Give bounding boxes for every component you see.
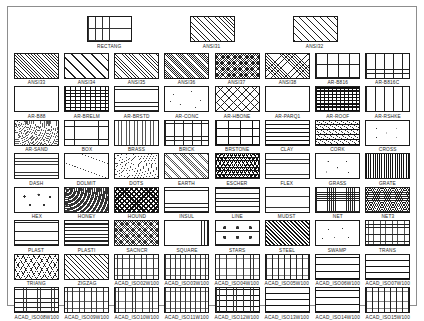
pattern-swatch[interactable] <box>64 187 109 213</box>
pattern-swatch[interactable] <box>315 287 360 313</box>
pattern-swatch[interactable] <box>164 153 209 179</box>
pattern-swatch[interactable] <box>215 287 260 313</box>
pattern-swatch[interactable] <box>64 287 109 313</box>
pattern-cell[interactable]: AR-CONC <box>164 86 209 119</box>
pattern-swatch[interactable] <box>164 220 209 246</box>
pattern-swatch[interactable] <box>365 153 410 179</box>
pattern-cell[interactable]: DASH <box>14 153 59 186</box>
pattern-cell[interactable]: MUDST <box>265 187 310 220</box>
pattern-swatch[interactable] <box>265 254 310 280</box>
pattern-cell[interactable]: ACAD_ISO13W100 <box>265 287 310 320</box>
pattern-cell[interactable]: ACAD_ISO08W100 <box>14 287 59 320</box>
pattern-cell[interactable]: ACAD_ISO15W100 <box>365 287 410 320</box>
pattern-cell[interactable]: BOX <box>64 120 109 153</box>
pattern-cell[interactable]: ESCHER <box>215 153 260 186</box>
pattern-swatch[interactable] <box>114 153 159 179</box>
pattern-swatch[interactable] <box>365 287 410 313</box>
pattern-cell[interactable]: FLEX <box>265 153 310 186</box>
pattern-swatch[interactable] <box>64 86 109 112</box>
pattern-swatch[interactable] <box>164 86 209 112</box>
pattern-cell[interactable]: AR-SAND <box>14 120 59 153</box>
pattern-swatch[interactable] <box>315 53 360 79</box>
pattern-cell[interactable]: BRICK <box>164 120 209 153</box>
pattern-cell[interactable]: AR-B816 <box>315 53 360 86</box>
pattern-cell[interactable]: AR-PARQ1 <box>265 86 310 119</box>
pattern-swatch[interactable] <box>164 53 209 79</box>
pattern-cell[interactable]: ANSI32 <box>293 16 338 49</box>
pattern-swatch[interactable] <box>365 86 410 112</box>
pattern-cell[interactable]: ACAD_ISO03W100 <box>164 254 209 287</box>
pattern-swatch[interactable] <box>215 220 260 246</box>
pattern-cell[interactable]: ZIGZAG <box>64 254 109 287</box>
pattern-swatch[interactable] <box>14 86 59 112</box>
pattern-swatch[interactable] <box>114 120 159 146</box>
pattern-swatch[interactable] <box>64 254 109 280</box>
pattern-cell[interactable]: AR-B816C <box>365 53 410 86</box>
pattern-swatch[interactable] <box>293 16 338 42</box>
pattern-swatch[interactable] <box>14 254 59 280</box>
pattern-swatch[interactable] <box>164 187 209 213</box>
pattern-cell[interactable]: HOUND <box>114 187 159 220</box>
pattern-cell[interactable]: ACAD_ISO10W100 <box>114 287 159 320</box>
pattern-swatch[interactable] <box>315 254 360 280</box>
pattern-swatch[interactable] <box>64 153 109 179</box>
pattern-cell[interactable]: AR-HBONE <box>215 86 260 119</box>
pattern-cell[interactable]: CORK <box>315 120 360 153</box>
pattern-cell[interactable]: ACAD_ISO14W100 <box>315 287 360 320</box>
pattern-swatch[interactable] <box>315 220 360 246</box>
pattern-cell[interactable]: STEEL <box>265 220 310 253</box>
pattern-cell[interactable]: PLASTI <box>64 220 109 253</box>
pattern-swatch[interactable] <box>215 153 260 179</box>
pattern-cell[interactable]: AR-B88 <box>14 86 59 119</box>
pattern-cell[interactable]: DOLMIT <box>64 153 109 186</box>
pattern-cell[interactable]: PLAST <box>14 220 59 253</box>
pattern-cell[interactable]: ANSI34 <box>64 53 109 86</box>
pattern-cell[interactable]: SQUARE <box>164 220 209 253</box>
pattern-swatch[interactable] <box>14 220 59 246</box>
pattern-cell[interactable]: ACAD_ISO11W100 <box>164 287 209 320</box>
pattern-cell[interactable]: AR-ROOF <box>315 86 360 119</box>
pattern-cell[interactable]: ACAD_ISO04W100 <box>215 254 260 287</box>
pattern-cell[interactable]: NET <box>315 187 360 220</box>
pattern-swatch[interactable] <box>265 120 310 146</box>
pattern-swatch[interactable] <box>265 220 310 246</box>
pattern-swatch[interactable] <box>365 187 410 213</box>
pattern-cell[interactable]: ACAD_ISO02W100 <box>114 254 159 287</box>
pattern-swatch[interactable] <box>14 287 59 313</box>
pattern-swatch[interactable] <box>365 53 410 79</box>
pattern-swatch[interactable] <box>215 86 260 112</box>
pattern-swatch[interactable] <box>365 220 410 246</box>
pattern-cell[interactable]: ACAD_ISO05W100 <box>265 254 310 287</box>
pattern-swatch[interactable] <box>164 287 209 313</box>
pattern-cell[interactable]: ACAD_ISO07W100 <box>365 254 410 287</box>
pattern-swatch[interactable] <box>215 120 260 146</box>
pattern-swatch[interactable] <box>315 120 360 146</box>
pattern-swatch[interactable] <box>215 53 260 79</box>
pattern-cell[interactable]: ANSI37 <box>215 53 260 86</box>
pattern-cell[interactable]: AR-BRELM <box>64 86 109 119</box>
pattern-cell[interactable]: NET3 <box>365 187 410 220</box>
pattern-swatch[interactable] <box>114 53 159 79</box>
pattern-cell[interactable]: TRIANG <box>14 254 59 287</box>
pattern-swatch[interactable] <box>14 53 59 79</box>
pattern-swatch[interactable] <box>190 16 235 42</box>
pattern-cell[interactable]: DOTS <box>114 153 159 186</box>
pattern-cell[interactable]: TRANS <box>365 220 410 253</box>
pattern-cell[interactable]: HEX <box>14 187 59 220</box>
pattern-swatch[interactable] <box>114 287 159 313</box>
pattern-swatch[interactable] <box>265 53 310 79</box>
pattern-cell[interactable]: LINE <box>215 187 260 220</box>
pattern-cell[interactable]: ANSI33 <box>14 53 59 86</box>
pattern-swatch[interactable] <box>265 287 310 313</box>
pattern-swatch[interactable] <box>114 254 159 280</box>
pattern-cell[interactable]: ANSI31 <box>190 16 235 49</box>
pattern-cell[interactable]: STARS <box>215 220 260 253</box>
pattern-swatch[interactable] <box>215 254 260 280</box>
pattern-cell[interactable]: SACNCR <box>114 220 159 253</box>
pattern-cell[interactable]: AR-RSHKE <box>365 86 410 119</box>
pattern-cell[interactable]: ACAD_ISO09W100 <box>64 287 109 320</box>
pattern-swatch[interactable] <box>265 86 310 112</box>
pattern-cell[interactable]: BRASS <box>114 120 159 153</box>
pattern-swatch[interactable] <box>114 187 159 213</box>
pattern-swatch[interactable] <box>315 153 360 179</box>
